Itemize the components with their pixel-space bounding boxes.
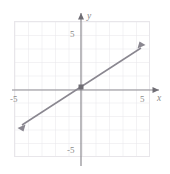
y-axis-tick-label-negative-5: -5 xyxy=(67,146,75,155)
origin-point-marker xyxy=(79,85,84,90)
y-axis-label: y xyxy=(87,12,91,22)
x-axis-tick-label-negative-5: -5 xyxy=(10,95,18,104)
y-axis-tick-label-positive-5: 5 xyxy=(70,30,75,39)
x-axis-label: x xyxy=(157,94,161,104)
coordinate-plane xyxy=(0,0,170,174)
graph-figure: 5 -5 -5 5 y x xyxy=(0,0,170,174)
x-axis-tick-label-positive-5: 5 xyxy=(140,95,145,104)
